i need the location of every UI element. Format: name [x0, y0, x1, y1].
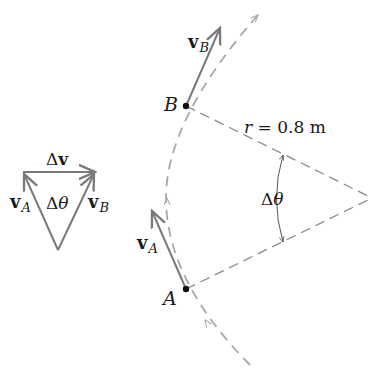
delta-symbol: Δ: [46, 149, 58, 169]
radius-value: = 0.8 m: [252, 117, 326, 137]
v-symbol: v: [58, 149, 68, 169]
radius-line-A: [186, 198, 372, 289]
circular-path: [166, 15, 258, 365]
point-A-label: A: [163, 289, 177, 308]
v-symbol: v: [137, 232, 147, 253]
point-B: [183, 103, 189, 109]
theta-symbol: θ: [273, 189, 283, 209]
theta-symbol: θ: [58, 193, 68, 213]
radius-label: r = 0.8 m: [244, 119, 326, 136]
v-symbol: v: [188, 31, 198, 52]
point-A: [183, 286, 189, 292]
triangle-delta-v-label: Δv: [46, 151, 68, 168]
triangle-vB-label: vB: [88, 193, 109, 211]
subscript-B: B: [99, 200, 109, 215]
subscript-B: B: [199, 40, 209, 55]
point-B-label: B: [164, 95, 178, 114]
angle-label: Δθ: [261, 191, 284, 208]
delta-symbol: Δ: [261, 189, 273, 209]
vA-label: vA: [137, 234, 158, 252]
subscript-A: A: [21, 200, 30, 215]
radius-variable: r: [244, 117, 252, 137]
triangle-vA-label: vA: [10, 193, 31, 211]
path-direction-arrow-bottom: [205, 320, 212, 330]
v-symbol: v: [10, 191, 20, 212]
subscript-A: A: [148, 241, 157, 256]
triangle-angle-label: Δθ: [46, 195, 69, 212]
delta-symbol: Δ: [46, 193, 58, 213]
v-symbol: v: [88, 191, 98, 212]
diagram-canvas: [0, 0, 386, 375]
vB-label: vB: [188, 33, 209, 51]
